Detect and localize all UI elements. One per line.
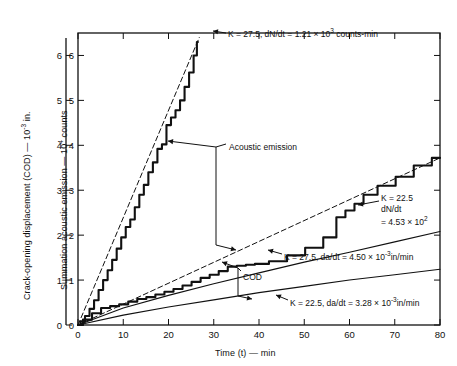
annotation-ae-low-rate: K = 22.5 dN/dt = 4.53 × 102 xyxy=(381,193,428,227)
annotation-cod-low-rate-unit: in/min xyxy=(397,298,420,308)
ae-callout-arrow-upper xyxy=(168,141,216,147)
y-axis-title-inner: Summation acoustic emission — 104 counts xyxy=(57,110,69,290)
y-tick-label-inner: 0 xyxy=(69,320,74,331)
x-axis-title: Time (t) — min xyxy=(215,348,276,358)
x-tick-label: 70 xyxy=(389,329,400,340)
annotation-ae-high-rate: K = 27.5, dN/dt = 1.21 × 103 counts-min xyxy=(228,27,378,40)
series-line xyxy=(78,37,199,325)
label-acoustic-emission: Acoustic emission xyxy=(229,142,297,153)
y-tick-label-left: 6 xyxy=(57,50,62,61)
annotation-ae-low-rate-line2: dN/dt xyxy=(381,204,428,215)
annotation-ae-low-rate-line3-text: = 4.53 × 10 xyxy=(381,217,424,227)
ae-callout-arrow-upper-head xyxy=(168,139,173,144)
annotation-ae-high-rate-text: K = 27.5, dN/dt = 1.21 × 10 xyxy=(228,29,330,39)
ae-callout-stem xyxy=(216,144,226,147)
x-tick-label: 0 xyxy=(75,329,80,340)
y-tick-label-inner: 5 xyxy=(69,95,74,106)
y-tick-label-inner: 3 xyxy=(69,185,74,196)
y-axis-title-left-exponent: -3 xyxy=(20,124,27,130)
annotation-cod-high-rate-text: K = 27.5, da/dt = 4.50 × 10 xyxy=(284,252,385,262)
y-axis-title-inner-unit: counts xyxy=(59,110,69,140)
y-axis-title-inner-exponent: 4 xyxy=(57,140,64,144)
annotation-cod-low-rate-text: K = 22.5, da/dt = 3.28 × 10 xyxy=(290,298,391,308)
annotation-cod-low-rate: K = 22.5, da/dt = 3.28 × 10-3in/min xyxy=(290,296,419,309)
x-tick-label: 50 xyxy=(299,329,310,340)
x-tick-label: 30 xyxy=(208,329,219,340)
x-tick-label: 10 xyxy=(118,329,129,340)
x-tick-label: 80 xyxy=(435,329,446,340)
x-tick-label: 60 xyxy=(344,329,355,340)
y-tick-label-left: 0 xyxy=(57,320,62,331)
ae-callout-arrow-lower-head xyxy=(231,246,236,251)
y-axis-title-left: Crack-opening displacement (COD) — 10-3 … xyxy=(20,111,32,300)
annotation-ae-low-rate-line3: = 4.53 × 102 xyxy=(381,215,428,228)
x-tick-label: 20 xyxy=(163,329,174,340)
figure-acoustic-emission-cod: 0011223344556601020304050607080 Crack-op… xyxy=(0,0,457,366)
x-tick-label: 40 xyxy=(254,329,265,340)
y-tick-label-inner: 4 xyxy=(69,140,74,151)
y-axis-title-left-unit: in. xyxy=(22,111,32,123)
annotation-ae-high-rate-unit: counts-min xyxy=(334,29,378,39)
y-axis-title-left-text: Crack-opening displacement (COD) — 10 xyxy=(22,130,32,300)
annotation-cod-high-rate: K = 27.5, da/dt = 4.50 × 10-3in/min xyxy=(284,250,413,263)
y-tick-label-inner: 1 xyxy=(69,275,74,286)
annotation-ae-low-rate-line1: K = 22.5 xyxy=(381,193,428,204)
y-tick-label-inner: 6 xyxy=(69,50,74,61)
y-axis-title-inner-text: Summation acoustic emission — 10 xyxy=(59,144,69,290)
annotation-cod-high-rate-unit: in/min xyxy=(391,252,414,262)
y-tick-label-left: 5 xyxy=(57,95,62,106)
label-cod: COD xyxy=(243,272,262,283)
y-tick-label-inner: 2 xyxy=(69,230,74,241)
cod-callout-arrow-lower-head xyxy=(247,295,252,300)
annotation-ae-low-rate-line3-exponent: 2 xyxy=(424,215,428,222)
cod-high-rate-leader-head xyxy=(268,249,274,254)
